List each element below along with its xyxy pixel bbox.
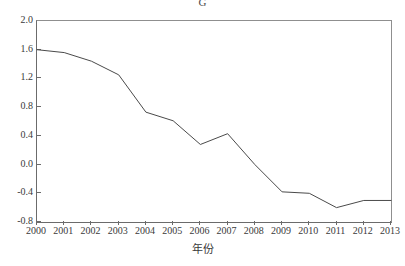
chart-title: G — [0, 0, 405, 8]
x-tick-label: 2009 — [271, 225, 291, 236]
x-tick-label: 2000 — [26, 225, 46, 236]
x-tick-label: 2010 — [298, 225, 318, 236]
y-tick-label: 0.0 — [3, 159, 33, 169]
x-tick-label: 2002 — [80, 225, 100, 236]
y-tick-label: 1.6 — [3, 44, 33, 54]
y-tick-label: -0.4 — [3, 187, 33, 197]
chart-figure: G -0.8-0.40.00.40.81.21.62.0 20002001200… — [0, 0, 405, 266]
x-tick-label: 2006 — [189, 225, 209, 236]
x-tick-label: 2011 — [326, 225, 346, 236]
x-tick-label: 2004 — [135, 225, 155, 236]
x-tick-label: 2007 — [217, 225, 237, 236]
series-line-g — [37, 21, 391, 222]
series-polyline — [37, 50, 391, 208]
plot-area — [36, 20, 392, 223]
x-axis-title: 年份 — [0, 243, 405, 257]
x-tick-label: 2008 — [244, 225, 264, 236]
x-tick-label: 2001 — [53, 225, 73, 236]
y-tick-label: 0.4 — [3, 130, 33, 140]
x-tick-label: 2003 — [108, 225, 128, 236]
y-tick-label: 2.0 — [3, 15, 33, 25]
y-tick-label: 0.8 — [3, 101, 33, 111]
x-tick-label: 2005 — [162, 225, 182, 236]
x-tick-label: 2013 — [380, 225, 400, 236]
x-tick-label: 2012 — [353, 225, 373, 236]
y-tick-label: 1.2 — [3, 72, 33, 82]
x-axis-labels: 2000200120022003200420052006200720082009… — [0, 225, 405, 239]
